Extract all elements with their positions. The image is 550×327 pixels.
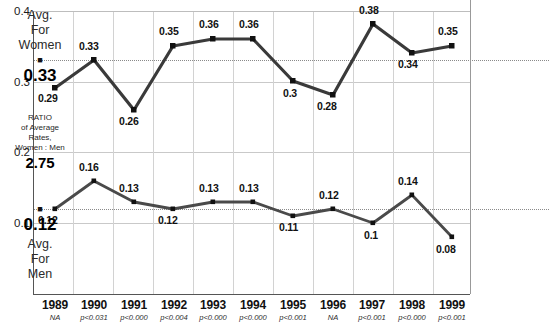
women-point-label-1997: 0.38 — [359, 5, 379, 16]
men-avg-heading-line1: Avg. — [0, 237, 80, 251]
men-point-label-1998: 0.14 — [398, 176, 418, 187]
women-point-label-1994: 0.36 — [239, 19, 259, 30]
p-value-1995: p<0.001 — [273, 313, 313, 322]
men-point-label-1999: 0.08 — [436, 244, 456, 255]
women-series-markers — [52, 21, 455, 113]
x-label-1991: 1991 — [114, 299, 154, 312]
x-label-1993: 1993 — [193, 299, 233, 312]
men-point-label-1990: 0.16 — [79, 162, 99, 173]
ratio-heading-line2: of Average — [0, 123, 80, 133]
women-avg-heading-line2: For — [0, 23, 80, 37]
x-label-1994: 1994 — [233, 299, 273, 312]
x-label-1997: 1997 — [352, 299, 392, 312]
women-point-label-1992: 0.35 — [159, 26, 179, 37]
men-point-label-1993: 0.13 — [199, 183, 219, 194]
women-point-label-1990: 0.33 — [79, 41, 99, 52]
p-value-1996: NA — [313, 313, 353, 322]
men-avg-heading-line2: For — [0, 252, 80, 266]
men-point-label-1995: 0.11 — [279, 222, 298, 233]
x-label-1996: 1996 — [313, 299, 353, 312]
men-avg-marker-icon: ■ — [0, 206, 80, 212]
men-point-label-1997: 0.1 — [364, 230, 378, 241]
p-value-1998: p<0.000 — [392, 313, 432, 322]
men-point-label-1996: 0.12 — [319, 190, 339, 201]
p-value-1993: p<0.000 — [193, 313, 233, 322]
ratio-value: 2.75 — [0, 154, 80, 171]
women-point-label-1995: 0.3 — [283, 88, 297, 99]
p-value-1994: p<0.000 — [233, 313, 273, 322]
chart-root: 0.4 0.3 0.2 0.1 — [0, 0, 550, 327]
women-avg-heading-line1: Avg. — [0, 8, 80, 22]
p-value-1991: p<0.000 — [114, 313, 154, 322]
p-value-1999: p<0.001 — [432, 313, 472, 322]
women-avg-value: 0.33 — [0, 66, 80, 85]
p-value-1997: p<0.001 — [352, 313, 392, 322]
x-label-1995: 1995 — [273, 299, 313, 312]
women-point-label-1993: 0.36 — [199, 19, 219, 30]
women-point-label-1999: 0.35 — [438, 26, 458, 37]
p-value-1990: p<0.031 — [74, 313, 114, 322]
men-avg-heading-line3: Men — [0, 267, 80, 281]
p-value-1992: p<0.004 — [154, 313, 194, 322]
women-point-label-1989: 0.29 — [38, 93, 58, 104]
men-avg-value: 0.12 — [0, 215, 80, 234]
x-label-1992: 1992 — [154, 299, 194, 312]
x-label-1999: 1999 — [432, 299, 472, 312]
x-label-1989: 1989 — [35, 299, 75, 312]
men-point-label-1994: 0.13 — [239, 183, 259, 194]
women-point-label-1998: 0.34 — [398, 59, 418, 70]
p-value-1989: NA — [35, 313, 75, 322]
women-avg-marker-icon: ■ — [0, 57, 80, 63]
ratio-heading-line3: Rates, — [0, 133, 80, 143]
women-avg-heading-line3: Women — [0, 38, 80, 52]
women-point-label-1996: 0.28 — [317, 101, 337, 112]
x-label-1998: 1998 — [392, 299, 432, 312]
women-point-label-1991: 0.26 — [119, 116, 139, 127]
ratio-heading-line1: RATIO — [0, 113, 80, 123]
men-point-label-1992: 0.12 — [158, 215, 178, 226]
ratio-heading-line4: Women : Men — [0, 143, 80, 153]
men-point-label-1991: 0.13 — [119, 183, 139, 194]
summary-panel — [470, 0, 550, 294]
x-label-1990: 1990 — [74, 299, 114, 312]
